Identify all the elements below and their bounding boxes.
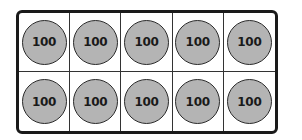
frame-cell: 100 [173,72,224,131]
frame-cell: 100 [224,13,275,72]
place-value-disk: 100 [227,20,272,65]
place-value-disk: 100 [227,79,272,124]
place-value-disk: 100 [73,20,118,65]
frame-cell: 100 [70,13,121,72]
frame-cell: 100 [121,13,172,72]
place-value-disk: 100 [124,20,169,65]
frame-cell: 100 [121,72,172,131]
ten-frame: 100 100 100 100 100 100 100 100 100 100 [16,10,278,134]
frame-cell: 100 [19,13,70,72]
place-value-disk: 100 [124,79,169,124]
frame-cell: 100 [224,72,275,131]
place-value-disk: 100 [22,20,67,65]
place-value-disk: 100 [22,79,67,124]
frame-cell: 100 [173,13,224,72]
frame-cell: 100 [70,72,121,131]
place-value-disk: 100 [73,79,118,124]
place-value-disk: 100 [175,79,220,124]
place-value-disk: 100 [175,20,220,65]
frame-cell: 100 [19,72,70,131]
